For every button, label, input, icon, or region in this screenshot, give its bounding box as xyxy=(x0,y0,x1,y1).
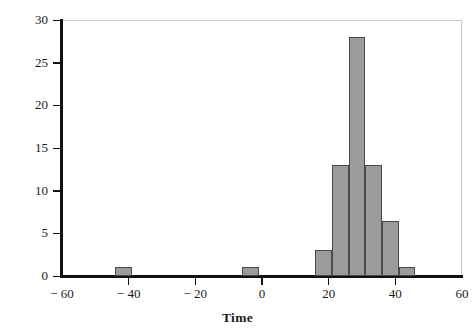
x-tick-label: 40 xyxy=(371,287,419,300)
x-axis-title: Time xyxy=(0,310,475,326)
x-tick-label: 20 xyxy=(305,287,353,300)
y-tick-label: 15 xyxy=(18,141,48,154)
y-tick-mark xyxy=(53,190,60,192)
histogram-bar xyxy=(315,250,332,276)
y-tick-mark xyxy=(53,233,60,235)
histogram-bar xyxy=(115,267,132,276)
y-tick-mark xyxy=(53,20,60,22)
histogram-bar xyxy=(332,165,349,276)
y-tick-label: 25 xyxy=(18,56,48,69)
x-tick-label: − 20 xyxy=(171,287,219,300)
histogram-chart: 051015202530 − 60− 40− 200204060 Erequen… xyxy=(0,0,475,333)
x-tick-label: 60 xyxy=(438,287,475,300)
x-tick-label: 0 xyxy=(238,287,286,300)
x-tick-label: − 40 xyxy=(105,287,153,300)
y-tick-label: 30 xyxy=(18,13,48,26)
histogram-bar xyxy=(349,37,366,276)
y-tick-mark xyxy=(53,276,60,278)
histogram-bar xyxy=(399,267,416,276)
y-axis-line xyxy=(60,19,63,277)
y-tick-mark xyxy=(53,148,60,150)
x-tick-mark xyxy=(395,278,397,285)
histogram-bar xyxy=(242,267,259,276)
y-tick-label: 0 xyxy=(18,269,48,282)
plot-area xyxy=(62,20,462,276)
x-tick-mark xyxy=(128,278,130,285)
x-tick-mark xyxy=(195,278,197,285)
histogram-bar xyxy=(382,221,399,276)
y-tick-label: 5 xyxy=(18,226,48,239)
y-tick-mark xyxy=(53,62,60,64)
y-tick-mark xyxy=(53,105,60,107)
x-tick-mark xyxy=(261,278,263,285)
y-tick-label: 10 xyxy=(18,184,48,197)
histogram-bar xyxy=(365,165,382,276)
x-tick-label: − 60 xyxy=(38,287,86,300)
y-tick-label: 20 xyxy=(18,98,48,111)
x-tick-mark xyxy=(328,278,330,285)
